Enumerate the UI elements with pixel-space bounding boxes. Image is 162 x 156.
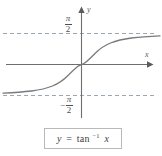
- formula-caption-box: y = tan −1 x: [44, 128, 122, 149]
- y-tick-label-negative-pi-over-two: − π 2: [60, 95, 73, 115]
- y-tick-label-pi-over-two: π 2: [64, 14, 72, 34]
- formula-text: y = tan −1 x: [57, 133, 109, 144]
- formula-lhs: y: [57, 133, 62, 144]
- formula-argument: x: [104, 133, 109, 144]
- y-axis-arrowhead: [78, 7, 84, 14]
- fraction-negative-pi-over-two: π 2: [66, 95, 73, 115]
- fraction-denominator: 2: [65, 25, 72, 34]
- y-axis-label: y: [87, 6, 91, 14]
- fraction-numerator: π: [65, 14, 72, 23]
- formula-function-name: tan: [77, 133, 90, 144]
- x-axis-label: x: [145, 51, 149, 59]
- formula-exponent: −1: [92, 132, 99, 139]
- arctangent-figure: y x π 2 − π 2 y = tan −1 x: [0, 0, 162, 156]
- fraction-pi-over-two: π 2: [65, 14, 72, 34]
- fraction-numerator: π: [66, 95, 73, 104]
- fraction-denominator: 2: [66, 106, 73, 115]
- formula-equals: =: [66, 133, 72, 144]
- lower-tick-minus-sign: −: [60, 101, 65, 110]
- x-axis-arrowhead: [147, 61, 154, 67]
